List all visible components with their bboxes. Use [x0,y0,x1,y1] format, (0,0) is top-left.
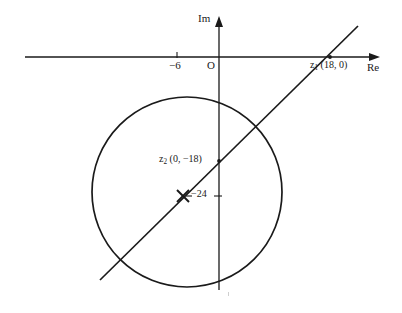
argand-diagram-figure: Im Re O −6 −24 z1 (18, 0) z2 (0, −18) [0,0,402,313]
real-axis-label: Re [367,62,379,73]
point-label-z1: z1 (18, 0) [310,60,347,72]
tick-label-minus-24: −24 [191,189,207,199]
tick-label-minus-6: −6 [169,60,181,71]
point-label-z1-subscript: 1 [314,64,318,72]
point-label-z1-coords: (18, 0) [321,59,348,70]
real-axis-arrowhead [369,53,380,61]
origin-label: O [207,60,215,71]
point-label-z2: z2 (0, −18) [159,154,202,166]
point-label-z2-subscript: 2 [163,158,167,166]
imaginary-axis-arrowhead [215,16,223,27]
scan-speck [228,292,229,296]
point-label-z2-coords: (0, −18) [170,153,202,164]
point-z2-dot [217,159,221,163]
imaginary-axis-label: Im [198,13,210,24]
